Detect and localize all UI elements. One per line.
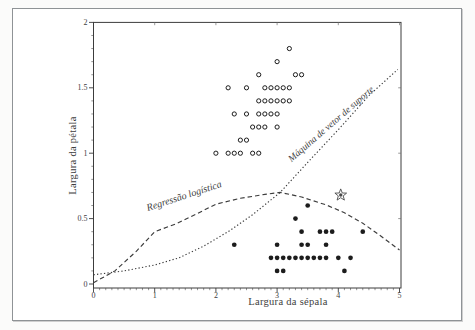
filled-circle-point (336, 255, 341, 260)
open-circle-point (275, 112, 279, 116)
plot-box (94, 22, 402, 288)
open-circle-point (226, 86, 230, 90)
open-circle-point (275, 99, 279, 103)
filled-circle-point (324, 255, 329, 260)
open-circle-point (257, 73, 261, 77)
filled-circle-point (293, 255, 298, 260)
open-circle-point (287, 86, 291, 90)
open-circle-point (214, 151, 218, 155)
filled-circle-point (311, 255, 316, 260)
open-circle-point (232, 112, 236, 116)
open-circle-point (275, 125, 279, 129)
y-tick-label: 0.5 (78, 214, 88, 223)
star-marker-center (339, 193, 342, 196)
open-circle-point (238, 138, 242, 142)
open-circle-point (257, 112, 261, 116)
filled-circle-point (305, 242, 310, 247)
filled-circle-point (275, 242, 280, 247)
x-tick-label: 0 (92, 291, 96, 300)
open-circle-point (281, 99, 285, 103)
x-tick-label: 1 (153, 291, 157, 300)
open-circle-point (263, 125, 267, 129)
filled-circle-point (299, 255, 304, 260)
filled-circle-point (299, 229, 304, 234)
filled-circle-point (324, 242, 329, 247)
open-circle-point (263, 86, 267, 90)
open-circle-point (269, 99, 273, 103)
open-circle-point (238, 151, 242, 155)
filled-circle-point (305, 203, 310, 208)
y-tick-label: 1 (84, 149, 88, 158)
filled-circle-point (348, 255, 353, 260)
open-circle-point (257, 151, 261, 155)
filled-circle-point (232, 242, 237, 247)
open-circle-point (269, 86, 273, 90)
open-circle-point (263, 99, 267, 103)
open-circle-point (287, 46, 291, 50)
open-circle-point (269, 112, 273, 116)
open-circle-point (251, 151, 255, 155)
filled-circle-point (330, 229, 335, 234)
open-circle-point (299, 73, 303, 77)
open-circle-point (257, 125, 261, 129)
filled-circle-point (287, 255, 292, 260)
open-circle-point (287, 99, 291, 103)
filled-circle-point (275, 269, 280, 274)
open-circle-point (244, 112, 248, 116)
filled-circle-point (269, 255, 274, 260)
y-tick-label: 0 (84, 280, 88, 289)
x-tick-label: 5 (398, 291, 402, 300)
filled-circle-point (293, 216, 298, 221)
filled-circle-point (342, 269, 347, 274)
open-circle-point (232, 151, 236, 155)
open-circle-point (275, 60, 279, 64)
filled-circle-point (305, 255, 310, 260)
y-axis-label: Largura da pétala (67, 106, 78, 206)
open-circle-point (226, 151, 230, 155)
filled-circle-point (318, 229, 323, 234)
open-circle-point (251, 125, 255, 129)
open-circle-point (257, 99, 261, 103)
x-tick-label: 2 (214, 291, 218, 300)
filled-circle-point (318, 255, 323, 260)
y-tick-label: 2 (84, 18, 88, 27)
open-circle-point (293, 73, 297, 77)
open-circle-point (263, 112, 267, 116)
filled-circle-point (275, 255, 280, 260)
open-circle-point (275, 86, 279, 90)
open-circle-point (244, 86, 248, 90)
x-axis-label: Largura da sépala (228, 296, 348, 307)
filled-circle-point (281, 255, 286, 260)
filled-circle-point (299, 242, 304, 247)
open-circle-point (281, 86, 285, 90)
open-circle-point (244, 138, 248, 142)
filled-circle-point (281, 269, 286, 274)
y-tick-label: 1.5 (78, 83, 88, 92)
filled-circle-point (324, 229, 329, 234)
filled-circle-point (360, 229, 365, 234)
